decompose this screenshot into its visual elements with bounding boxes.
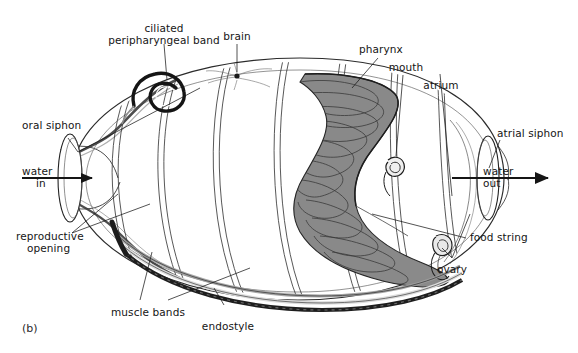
label-line-1: ciliated [144,22,183,34]
label-endostyle: endostyle [202,320,254,332]
label-brain: brain [223,30,251,42]
label-line-2: opening [27,242,70,254]
label-water-out: water out [483,165,513,189]
label-atrial-siphon: atrial siphon [497,127,564,139]
panel-tag: (b) [22,322,38,335]
label-line-2: peripharyngeal band [108,34,219,46]
label-muscle-bands: muscle bands [111,306,185,318]
label-line-1: reproductive [16,230,84,242]
label-food-string: food string [470,231,528,243]
label-atrium: atrium [423,79,458,91]
label-reproductive-opening: reproductive opening [16,230,84,254]
label-line-2: in [36,177,46,189]
label-line-1: water [483,165,513,177]
label-pharynx: pharynx [359,43,403,55]
diagram-linework [22,44,548,314]
label-ciliated-peripharyngeal-band: ciliated peripharyngeal band [108,22,219,46]
label-mouth: mouth [389,61,424,73]
label-oral-siphon: oral siphon [22,119,81,131]
label-water-in: water in [22,165,52,189]
label-line-1: water [22,165,52,177]
label-line-2: out [483,177,501,189]
label-ovary: ovary [437,263,467,275]
